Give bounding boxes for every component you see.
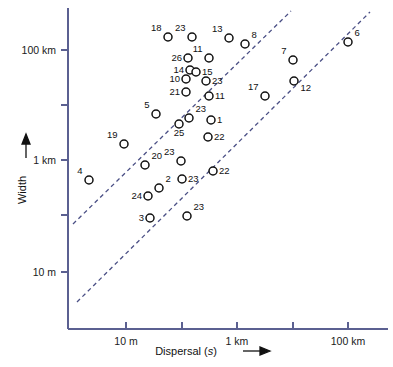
y-axis-arrow-head <box>22 134 30 144</box>
trend-line-upper-bound <box>73 11 291 224</box>
data-point[interactable]: 8 <box>241 29 257 48</box>
point-marker-23[interactable] <box>188 33 196 41</box>
data-point[interactable]: 11 <box>193 43 213 63</box>
data-point[interactable]: 4 <box>77 165 93 185</box>
point-marker-20[interactable] <box>141 161 149 169</box>
point-marker-11[interactable] <box>205 92 213 100</box>
point-marker-23[interactable] <box>185 114 193 122</box>
point-marker-1[interactable] <box>207 116 215 124</box>
point-marker-3[interactable] <box>146 214 154 222</box>
plot-canvas: 1823138626117141510231221111752312522192… <box>0 0 393 367</box>
data-point[interactable]: 19 <box>107 129 128 149</box>
data-point[interactable]: 2 <box>155 173 171 192</box>
point-marker-4[interactable] <box>85 176 93 184</box>
point-marker-10[interactable] <box>182 75 190 83</box>
data-point[interactable]: 3 <box>139 212 154 223</box>
x-tick-label: 1 km <box>226 335 249 347</box>
point-marker-26[interactable] <box>184 54 192 62</box>
point-marker-13[interactable] <box>225 34 233 42</box>
x-axis-title: Dispersal (s) <box>155 345 270 357</box>
data-point[interactable]: 23 <box>183 201 204 220</box>
data-point[interactable]: 1 <box>207 114 222 125</box>
data-point[interactable]: 12 <box>290 77 311 93</box>
data-point[interactable]: 22 <box>204 131 225 142</box>
x-axis-title-italic: s <box>208 345 214 357</box>
point-label-23: 23 <box>164 146 175 157</box>
x-tick-label: 100 km <box>331 335 366 347</box>
y-axis-title: Width <box>16 134 30 204</box>
point-marker-11[interactable] <box>205 54 213 62</box>
point-label-5: 5 <box>144 99 149 110</box>
point-marker-18[interactable] <box>164 33 172 41</box>
point-label-7: 7 <box>281 45 286 56</box>
data-point[interactable]: 23 <box>164 146 185 166</box>
point-marker-2[interactable] <box>155 184 163 192</box>
y-tick-label: 10 m <box>33 266 57 278</box>
data-point[interactable]: 23 <box>185 103 206 122</box>
x-axis-arrow-head <box>260 347 270 355</box>
point-marker-15[interactable] <box>192 68 200 76</box>
data-point[interactable]: 11 <box>205 90 225 101</box>
data-point[interactable]: 23 <box>202 75 223 86</box>
x-axis-title-text: Dispersal (s) <box>155 345 217 357</box>
point-label-3: 3 <box>139 212 144 223</box>
point-label-24: 24 <box>131 190 142 201</box>
data-point[interactable]: 23 <box>175 22 196 42</box>
data-point[interactable]: 26 <box>171 52 192 63</box>
y-axis-ticks <box>61 50 68 272</box>
point-label-13: 13 <box>212 23 223 34</box>
x-tick-label: 10 m <box>114 335 138 347</box>
point-marker-8[interactable] <box>241 40 249 48</box>
point-marker-21[interactable] <box>182 88 190 96</box>
point-marker-6[interactable] <box>344 38 352 46</box>
point-label-23: 23 <box>175 22 186 33</box>
point-label-8: 8 <box>252 29 257 40</box>
data-point[interactable]: 21 <box>169 86 190 97</box>
data-point[interactable]: 22 <box>209 165 230 176</box>
data-point[interactable]: 7 <box>281 45 297 65</box>
point-marker-22[interactable] <box>209 167 217 175</box>
data-point[interactable]: 20 <box>141 150 162 169</box>
trend-lines-group <box>73 11 370 302</box>
point-marker-19[interactable] <box>120 140 128 148</box>
point-marker-7[interactable] <box>289 56 297 64</box>
y-tick-label: 100 km <box>22 44 57 56</box>
point-marker-23[interactable] <box>183 212 191 220</box>
point-label-12: 12 <box>301 82 312 93</box>
data-point[interactable]: 17 <box>248 81 269 101</box>
point-marker-23[interactable] <box>178 175 186 183</box>
point-label-22: 22 <box>214 131 225 142</box>
point-label-18: 18 <box>151 22 162 33</box>
point-label-11: 11 <box>193 43 203 54</box>
data-point[interactable]: 13 <box>212 23 233 43</box>
data-point[interactable]: 18 <box>151 22 172 42</box>
point-label-25: 25 <box>174 127 185 138</box>
x-axis-tick-labels: 10 m1 km100 km <box>114 335 365 347</box>
point-marker-22[interactable] <box>204 133 212 141</box>
data-point[interactable]: 10 <box>169 73 190 84</box>
point-marker-24[interactable] <box>144 192 152 200</box>
point-marker-23[interactable] <box>202 77 210 85</box>
data-point[interactable]: 15 <box>192 66 213 77</box>
point-label-10: 10 <box>169 73 180 84</box>
point-label-11: 11 <box>215 90 225 101</box>
data-points-group: 1823138626117141510231221111752312522192… <box>77 22 360 224</box>
point-marker-12[interactable] <box>290 77 298 85</box>
trend-line-lower-bound <box>77 12 370 302</box>
point-label-23: 23 <box>188 173 199 184</box>
point-label-23: 23 <box>212 75 223 86</box>
point-label-4: 4 <box>77 165 82 176</box>
data-point[interactable]: 23 <box>178 173 199 184</box>
data-point[interactable]: 6 <box>344 27 360 46</box>
scatter-plot-figure: 1823138626117141510231221111752312522192… <box>0 0 393 367</box>
point-label-15: 15 <box>202 66 213 77</box>
point-label-23: 23 <box>196 103 207 114</box>
point-label-6: 6 <box>355 27 360 38</box>
data-point[interactable]: 24 <box>131 190 152 201</box>
data-point[interactable]: 5 <box>144 99 160 119</box>
point-marker-17[interactable] <box>261 92 269 100</box>
point-marker-5[interactable] <box>152 110 160 118</box>
data-point[interactable]: 25 <box>174 120 185 138</box>
y-axis-title-text: Width <box>16 176 28 204</box>
point-marker-23[interactable] <box>177 157 185 165</box>
